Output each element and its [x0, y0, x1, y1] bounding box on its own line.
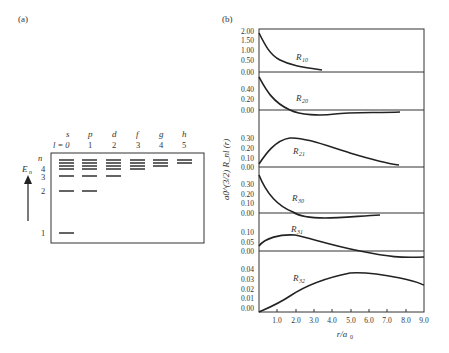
curve-R30: [259, 175, 380, 218]
arrow-up-icon: [24, 175, 32, 184]
n-labels: n 4 3 2 1: [38, 153, 46, 238]
svg-text:0.00: 0.00: [241, 209, 254, 218]
curve-R20: [259, 77, 400, 115]
svg-text:0.20: 0.20: [241, 95, 254, 104]
figure-canvas: (a) s p d f g h l = 0 1 2 3 4 5 n 4 3 2 …: [0, 0, 449, 353]
n-2: 2: [41, 186, 45, 196]
svg-text:0.00: 0.00: [241, 247, 254, 256]
svg-text:0.02: 0.02: [241, 285, 254, 294]
l-4: 4: [159, 140, 164, 150]
svg-text:1.50: 1.50: [241, 36, 254, 45]
svg-text:R: R: [295, 52, 302, 62]
svg-text:R: R: [290, 224, 297, 234]
x-tick-labels: 1.0 2.0 3.0 4.0 5.0 6.0 7.0 8.0 9.0: [272, 316, 429, 325]
svg-text:0.04: 0.04: [241, 265, 254, 274]
svg-text:0.00: 0.00: [241, 68, 254, 77]
radial-curves: [259, 33, 424, 312]
svg-text:8.0: 8.0: [401, 316, 411, 325]
svg-text:2.00: 2.00: [241, 27, 254, 36]
svg-text:32: 32: [298, 278, 305, 284]
svg-text:1.00: 1.00: [241, 46, 254, 55]
energy-axis: E n: [21, 164, 32, 221]
panel-a-label: (a): [18, 14, 28, 24]
svg-text:R: R: [295, 93, 302, 103]
orbital-d: d: [112, 129, 117, 139]
svg-text:R: R: [292, 146, 299, 156]
svg-text:0.10: 0.10: [241, 228, 254, 237]
panel-b-label: (b): [222, 14, 233, 24]
svg-text:20: 20: [302, 98, 308, 104]
svg-text:R: R: [291, 193, 298, 203]
n-label: n: [38, 153, 42, 163]
svg-text:30: 30: [297, 198, 304, 204]
l-5: 5: [182, 140, 186, 150]
y-tick-labels: 2.00 1.50 1.00 0.50 0.00 0.40 0.20 0.00 …: [241, 27, 254, 313]
svg-text:0.20: 0.20: [241, 144, 254, 153]
svg-text:0.05: 0.05: [241, 238, 254, 247]
svg-text:R: R: [292, 273, 299, 283]
svg-text:5.0: 5.0: [346, 316, 356, 325]
svg-text:0.20: 0.20: [241, 190, 254, 199]
l-label: l = 0: [53, 140, 70, 150]
orbital-f: f: [136, 129, 140, 139]
svg-text:0.30: 0.30: [241, 134, 254, 143]
x-axis-label: r/a: [337, 329, 348, 339]
l-3: 3: [136, 140, 140, 150]
energy-label: E: [21, 164, 28, 174]
l-values: l = 0 1 2 3 4 5: [53, 140, 186, 150]
svg-text:2.0: 2.0: [291, 316, 301, 325]
svg-text:10: 10: [302, 57, 308, 63]
svg-text:4.0: 4.0: [327, 316, 337, 325]
svg-text:7.0: 7.0: [382, 316, 392, 325]
svg-text:0.00: 0.00: [241, 304, 254, 313]
svg-text:3.0: 3.0: [309, 316, 319, 325]
curve-labels: R10 R20 R21 R30 R31 R32: [290, 52, 308, 284]
orbital-letters: s p d f g h: [66, 129, 187, 139]
n-1: 1: [41, 228, 45, 238]
svg-text:0.40: 0.40: [241, 85, 254, 94]
curve-R10: [259, 33, 322, 70]
svg-text:0.10: 0.10: [241, 154, 254, 163]
svg-text:0.50: 0.50: [241, 56, 254, 65]
curve-R32: [259, 273, 424, 312]
svg-text:9.0: 9.0: [419, 316, 429, 325]
plot-frame: [259, 29, 424, 312]
orbital-h: h: [182, 129, 187, 139]
curve-R21: [259, 138, 399, 165]
l-1: 1: [88, 140, 92, 150]
energy-subscript: n: [29, 169, 32, 175]
energy-levels: [59, 160, 192, 233]
l-2: 2: [112, 140, 116, 150]
svg-text:6.0: 6.0: [364, 316, 374, 325]
svg-text:0.30: 0.30: [241, 180, 254, 189]
svg-text:21: 21: [299, 151, 305, 157]
svg-text:0.00: 0.00: [241, 106, 254, 115]
orbital-p: p: [87, 129, 93, 139]
curve-R31: [259, 235, 424, 257]
svg-text:0.00: 0.00: [241, 163, 254, 172]
svg-text:0.03: 0.03: [241, 275, 254, 284]
svg-text:0.10: 0.10: [241, 199, 254, 208]
orbital-s: s: [66, 129, 70, 139]
svg-text:0.01: 0.01: [241, 294, 254, 303]
x-axis-label-sub: 0: [350, 334, 353, 340]
n-3: 3: [41, 172, 45, 182]
svg-text:1.0: 1.0: [272, 316, 282, 325]
y-axis-label: a0^(3/2) R_nl (r): [221, 139, 231, 200]
panel-baselines: [259, 72, 424, 251]
svg-text:31: 31: [296, 229, 303, 235]
orbital-g: g: [159, 129, 164, 139]
